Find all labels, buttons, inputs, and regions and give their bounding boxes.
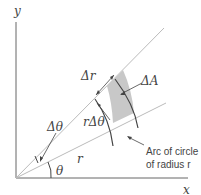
delta-a-label: ΔA	[140, 74, 159, 88]
arc-label-line1: Arc of circle	[146, 146, 199, 157]
delta-r-label: Δr	[80, 69, 97, 83]
theta-angle-arc	[48, 162, 51, 178]
x-axis-label: x	[183, 183, 190, 195]
delta-theta-label: Δθ	[46, 120, 64, 134]
y-axis-label: y	[13, 4, 21, 18]
delta-theta-pointer	[41, 133, 56, 160]
arc-arrow	[127, 136, 132, 140]
arc-label-line2: of radius r	[146, 159, 191, 170]
r-label: r	[77, 152, 84, 166]
theta-label: θ	[56, 164, 64, 178]
upper-ray	[16, 28, 164, 178]
polar-area-diagram: y x Δr ΔA rΔθ Δθ r θ Arc of circle of ra…	[0, 0, 201, 195]
r-delta-theta-label: rΔθ	[83, 115, 105, 129]
